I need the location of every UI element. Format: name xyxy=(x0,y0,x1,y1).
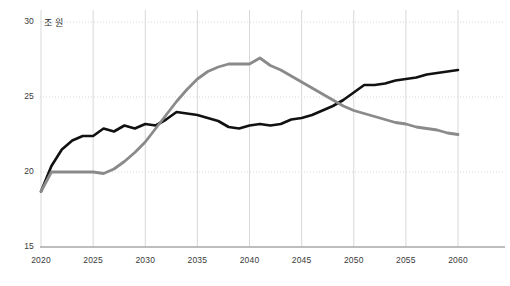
chart-canvas xyxy=(0,0,510,286)
x-axis-tick-label: 2035 xyxy=(177,255,217,265)
x-axis-tick-label: 2060 xyxy=(438,255,478,265)
x-axis-tick-label: 2025 xyxy=(73,255,113,265)
y-axis-tick-label: 20 xyxy=(8,166,34,176)
x-axis-tick-label: 2030 xyxy=(125,255,165,265)
x-axis-tick-label: 2050 xyxy=(334,255,374,265)
x-axis-tick-label: 2040 xyxy=(230,255,270,265)
y-axis-tick-label: 15 xyxy=(8,241,34,251)
x-axis-tick-label: 2055 xyxy=(386,255,426,265)
y-axis-tick-label: 25 xyxy=(8,91,34,101)
x-axis-tick-label: 2045 xyxy=(282,255,322,265)
y-axis-tick-label: 30 xyxy=(8,16,34,26)
line-chart: 조 원 152025302020202520302035204020452050… xyxy=(0,0,510,286)
x-axis-tick-label: 2020 xyxy=(21,255,61,265)
